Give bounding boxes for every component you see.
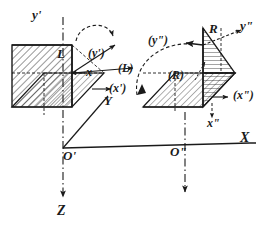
axis-label-y-prime-paren: (y') xyxy=(88,47,105,59)
axis-label-x-global: X xyxy=(240,131,249,145)
diagram-vector-art xyxy=(0,0,268,231)
axis-label-x-double-prime: x" xyxy=(207,117,220,129)
axis-label-y-double-prime: y" xyxy=(240,19,253,32)
axis-label-r-paren: (R) xyxy=(168,69,184,81)
origin-label-o-double-prime: O" xyxy=(170,145,187,158)
axis-label-y-global: Y xyxy=(104,94,112,107)
axis-label-l-paren: (L) xyxy=(118,62,133,74)
axis-label-y-double-prime-paren: (y") xyxy=(148,34,168,46)
body-label-l: L xyxy=(57,47,65,60)
axis-label-x: x xyxy=(86,66,92,78)
axis-label-y-prime: y' xyxy=(32,8,41,21)
origin-label-o-prime: O' xyxy=(63,149,76,162)
axis-label-z-global: Z xyxy=(57,204,66,218)
axis-label-x-double-prime-paren: (x") xyxy=(233,89,254,101)
figure-canvas: y' L (y') x (L) (x') Y (y") R y" (R) (x"… xyxy=(0,0,268,231)
body-label-r: R xyxy=(209,22,218,35)
